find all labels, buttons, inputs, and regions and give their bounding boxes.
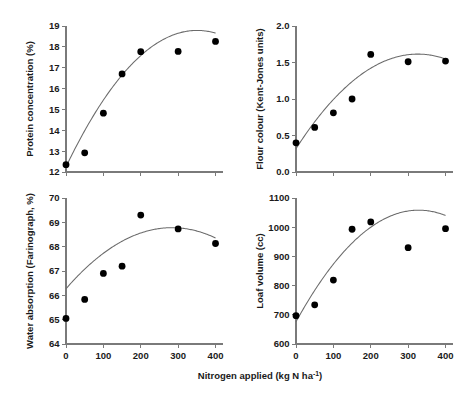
y-tick-label: 0.5 — [276, 130, 290, 141]
y-axis-title: Loaf volume (cc) — [254, 233, 265, 309]
x-tick-label: 0 — [63, 350, 68, 361]
x-tick-label: 400 — [438, 350, 454, 361]
four-panel-scatter-figure: 1213141516171819Protein concentration (%… — [0, 0, 467, 400]
y-tick-label: 65 — [49, 314, 60, 325]
y-tick-label: 67 — [49, 265, 60, 276]
y-tick-label: 900 — [274, 251, 290, 262]
data-point — [175, 226, 182, 233]
x-tick-label: 200 — [363, 350, 379, 361]
figure-background — [0, 0, 467, 400]
data-point — [137, 212, 144, 219]
y-tick-label: 0.0 — [276, 166, 289, 177]
y-tick-label: 18 — [49, 41, 60, 52]
y-tick-label: 66 — [49, 290, 60, 301]
data-point — [367, 51, 374, 58]
data-point — [442, 225, 449, 232]
y-tick-label: 19 — [49, 20, 60, 31]
y-tick-label: 1100 — [269, 192, 290, 203]
y-tick-label: 800 — [274, 280, 290, 291]
data-point — [293, 139, 300, 146]
data-point — [63, 315, 70, 322]
data-point — [119, 71, 126, 78]
x-tick-label: 0 — [293, 350, 298, 361]
x-tick-label: 200 — [133, 350, 149, 361]
data-point — [367, 219, 374, 226]
data-point — [100, 270, 107, 277]
data-point — [349, 226, 356, 233]
y-tick-label: 1000 — [268, 222, 289, 233]
data-point — [442, 58, 449, 65]
y-tick-label: 1.5 — [276, 57, 290, 68]
data-point — [311, 124, 318, 131]
x-tick-label: 300 — [170, 350, 186, 361]
shared-x-axis-label: Nitrogen applied (kg N ha-1) — [198, 370, 322, 382]
data-point — [81, 149, 88, 156]
data-point — [330, 277, 337, 284]
y-tick-label: 16 — [49, 83, 60, 94]
x-tick-label: 100 — [95, 350, 111, 361]
data-point — [349, 96, 356, 103]
figure-root: 1213141516171819Protein concentration (%… — [0, 0, 467, 400]
data-point — [175, 48, 182, 55]
x-tick-label: 100 — [325, 350, 341, 361]
y-tick-label: 70 — [49, 192, 60, 203]
y-tick-label: 68 — [49, 241, 60, 252]
data-point — [100, 110, 107, 117]
data-point — [212, 240, 219, 247]
y-tick-label: 15 — [49, 104, 60, 115]
x-tick-label: 300 — [400, 350, 416, 361]
y-tick-label: 12 — [49, 166, 60, 177]
y-tick-label: 69 — [49, 217, 60, 228]
data-point — [405, 244, 412, 251]
y-tick-label: 17 — [49, 62, 60, 73]
y-tick-label: 2.0 — [276, 20, 289, 31]
data-point — [293, 312, 300, 319]
data-point — [63, 161, 70, 168]
data-point — [212, 38, 219, 45]
data-point — [311, 301, 318, 308]
y-axis-title: Flour colour (Kent-Jones units) — [254, 28, 265, 169]
y-axis-title: Protein concentration (%) — [24, 41, 35, 157]
y-tick-label: 14 — [49, 125, 60, 136]
y-tick-label: 13 — [49, 146, 60, 157]
x-tick-label: 400 — [208, 350, 224, 361]
data-point — [330, 109, 337, 116]
y-tick-label: 600 — [274, 338, 290, 349]
y-tick-label: 1.0 — [276, 93, 289, 104]
data-point — [119, 263, 126, 270]
shared-x-axis-title: Nitrogen applied (kg N ha-1) — [198, 370, 322, 382]
y-axis-title: Water absorption (Farinograph, %) — [24, 193, 35, 349]
data-point — [405, 58, 412, 65]
data-point — [81, 296, 88, 303]
y-tick-label: 700 — [274, 309, 290, 320]
data-point — [137, 48, 144, 55]
y-tick-label: 64 — [49, 338, 60, 349]
